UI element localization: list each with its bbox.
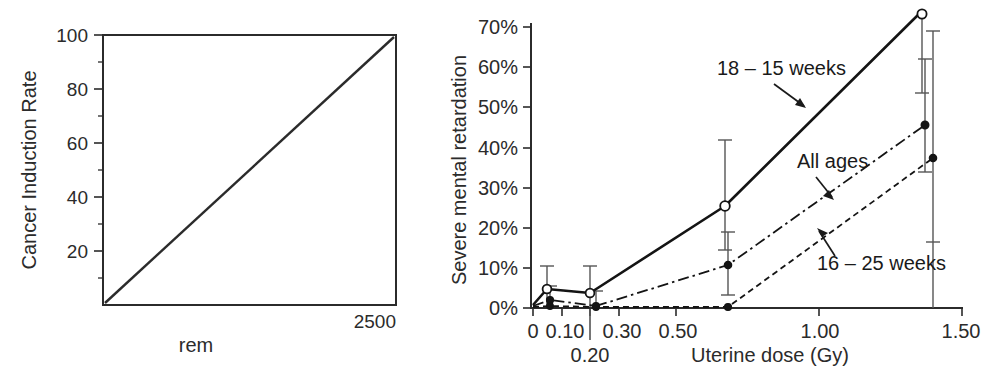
y-tick-label-40: 40 <box>67 187 88 208</box>
y-tick-label-30pct: 30% <box>478 177 518 199</box>
x-tick-label-010: 0.10 <box>546 320 585 342</box>
annotation-leader-18-15-weeks <box>774 84 806 108</box>
x-tick-label-020: 0.20 <box>571 344 610 366</box>
y-tick-label-60pct: 60% <box>478 56 518 78</box>
markers-16-25-weeks <box>547 154 937 310</box>
severe-mental-retardation-svg: 70% 60% 50% 40% 30% 20% 10% 0% Severe me… <box>440 0 997 378</box>
y-tick-label-80: 80 <box>67 79 88 100</box>
annotation-label-16-25-weeks: 16 – 25 weeks <box>817 252 946 274</box>
y-tick-label-0pct: 0% <box>489 297 518 319</box>
y-tick-label-10pct: 10% <box>478 257 518 279</box>
y-tick-label-20pct: 20% <box>478 217 518 239</box>
y-tick-label-60: 60 <box>67 133 88 154</box>
x-tick-label-150: 1.50 <box>942 320 981 342</box>
x-tick-label-050: 0.50 <box>659 320 698 342</box>
annotation-leader-all-ages <box>816 177 834 200</box>
x-axis-title: Uterine dose (Gy) <box>691 344 849 366</box>
x-axis-title: rem <box>179 334 213 356</box>
figure-root: 100 80 60 40 20 Cancer Induction Rate 25… <box>0 0 997 378</box>
y-tick-label-50pct: 50% <box>478 96 518 118</box>
x-tick-label-100: 1.00 <box>801 320 840 342</box>
chart-panel-cancer-induction-rate: 100 80 60 40 20 Cancer Induction Rate 25… <box>0 0 440 378</box>
y-tick-label-70pct: 70% <box>478 16 518 38</box>
markers-all-ages <box>547 121 929 309</box>
y-tick-label-100: 100 <box>56 25 88 46</box>
x-tick-label-2500: 2500 <box>354 311 396 332</box>
annotation-label-18-15-weeks: 18 – 15 weeks <box>717 57 846 79</box>
y-axis-major-ticks <box>94 35 103 251</box>
y-tick-label-40pct: 40% <box>478 137 518 159</box>
x-tick-label-030: 0.30 <box>603 320 642 342</box>
y-axis-ticks <box>523 27 531 308</box>
y-axis-title: Severe mental retardation <box>448 55 470 285</box>
x-tick-label-0: 0 <box>527 320 538 342</box>
chart-panel-severe-mental-retardation: 70% 60% 50% 40% 30% 20% 10% 0% Severe me… <box>440 0 997 378</box>
y-axis-title: Cancer Induction Rate <box>18 70 40 269</box>
annotation-label-all-ages: All ages <box>797 150 868 172</box>
cancer-induction-rate-svg: 100 80 60 40 20 Cancer Induction Rate 25… <box>0 0 440 378</box>
y-tick-label-20: 20 <box>67 241 88 262</box>
